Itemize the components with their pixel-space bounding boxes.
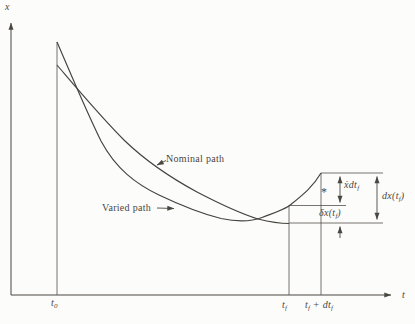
nominal-path-curve — [57, 65, 289, 224]
tf-tick-label: tf — [282, 299, 287, 313]
t-axis-label: t — [402, 289, 405, 300]
delta-x-tf-label: δx(tf) — [319, 207, 341, 221]
variational-path-diagram: x t t0 tf tf + dtf Nominal path Varied p… — [0, 0, 415, 324]
varied-path-curve — [57, 42, 321, 221]
nominal-path-label: Nominal path — [166, 153, 224, 164]
nominal-label-pointer-arrow — [157, 161, 166, 166]
star-marker: * — [321, 186, 327, 199]
dx-tf-label: dx(tf) — [382, 190, 404, 204]
tf-plus-dtf-tick-label: tf + dtf — [305, 299, 333, 313]
varied-label-pointer-arrow — [157, 208, 174, 209]
t0-tick-label: t0 — [51, 297, 58, 311]
xdot-dtf-label: ẋdtf — [344, 179, 359, 193]
varied-path-label: Varied path — [102, 202, 151, 213]
x-axis-label: x — [5, 1, 10, 12]
